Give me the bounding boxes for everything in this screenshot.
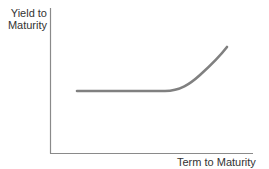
y-axis-label-line-2: Maturity: [8, 19, 47, 31]
yield-curve-line: [77, 47, 227, 91]
y-axis-label-line-1: Yield to: [8, 7, 47, 19]
y-axis-label: Yield to Maturity: [8, 7, 47, 31]
x-axis-label: Term to Maturity: [177, 156, 256, 168]
yield-curve-chart: Yield to Maturity Term to Maturity: [0, 0, 269, 169]
